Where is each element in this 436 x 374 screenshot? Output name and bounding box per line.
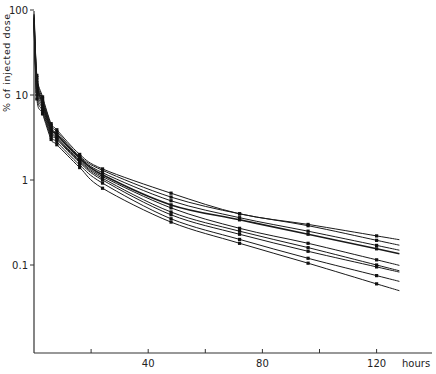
data-point	[78, 166, 81, 169]
data-point	[169, 199, 172, 202]
data-point	[55, 143, 58, 146]
data-point	[238, 242, 241, 245]
axes: 1001010.1 4080120 % of injected dose hou…	[1, 5, 432, 370]
data-point	[375, 244, 378, 247]
series-7	[34, 22, 399, 272]
data-point	[169, 220, 172, 223]
series-line	[34, 18, 399, 254]
data-point	[101, 187, 104, 190]
data-point	[169, 213, 172, 216]
data-point	[375, 234, 378, 237]
data-point	[169, 210, 172, 213]
data-point	[375, 258, 378, 261]
series-line	[34, 22, 399, 272]
data-point	[306, 246, 309, 249]
data-point	[306, 250, 309, 253]
series-line	[34, 15, 399, 245]
data-point	[101, 178, 104, 181]
y-tick-label: 0.1	[12, 260, 28, 271]
decay-chart: 1001010.1 4080120 % of injected dose hou…	[0, 0, 436, 374]
data-series	[34, 14, 399, 291]
data-point	[238, 230, 241, 233]
data-point	[238, 227, 241, 230]
data-point	[238, 212, 241, 215]
series-line	[34, 14, 399, 240]
y-axis-title: % of injected dose	[1, 13, 12, 112]
x-tick-label: 80	[256, 358, 269, 369]
data-point	[375, 247, 378, 250]
data-point	[375, 282, 378, 285]
data-point	[238, 238, 241, 241]
data-point	[41, 112, 44, 115]
series-1	[34, 14, 399, 240]
data-point	[101, 181, 104, 184]
y-ticks: 1001010.1	[9, 5, 34, 271]
x-tick-label: 120	[367, 358, 386, 369]
data-point	[375, 239, 378, 242]
data-point	[169, 203, 172, 206]
data-point	[375, 265, 378, 268]
data-point	[375, 274, 378, 277]
data-point	[306, 242, 309, 245]
x-tick-label: 40	[142, 358, 155, 369]
x-axis-title: hours	[402, 358, 430, 369]
series-2	[34, 15, 399, 245]
data-point	[306, 233, 309, 236]
data-point	[238, 218, 241, 221]
series-9	[34, 25, 399, 290]
series-line	[34, 25, 399, 290]
series-4	[34, 18, 399, 254]
x-ticks: 4080120	[91, 349, 386, 369]
data-point	[238, 233, 241, 236]
data-point	[169, 206, 172, 209]
data-point	[306, 224, 309, 227]
data-point	[169, 217, 172, 220]
data-point	[306, 262, 309, 265]
data-point	[306, 257, 309, 260]
y-tick-label: 10	[15, 90, 28, 101]
data-point	[306, 230, 309, 233]
data-point	[50, 138, 53, 141]
y-tick-label: 1	[22, 175, 28, 186]
data-point	[169, 192, 172, 195]
data-point	[35, 97, 38, 100]
data-point	[169, 195, 172, 198]
